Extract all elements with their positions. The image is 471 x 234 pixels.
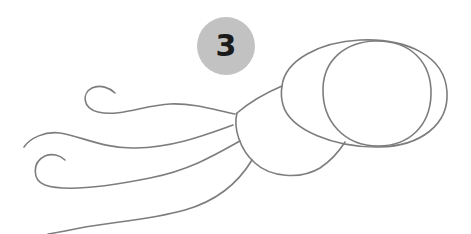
neck-top-line xyxy=(237,86,282,113)
step-badge: 3 xyxy=(197,17,255,75)
tentacle-bottom xyxy=(48,160,252,234)
head-inner-circle xyxy=(323,41,431,146)
tentacle-middle xyxy=(24,125,233,148)
head-outer-ellipse xyxy=(281,40,447,147)
step-number: 3 xyxy=(216,31,237,61)
tentacle-top xyxy=(85,86,235,114)
body-cup xyxy=(236,113,345,175)
